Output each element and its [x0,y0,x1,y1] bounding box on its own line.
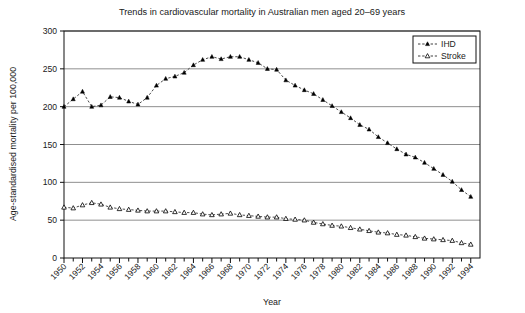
x-tick-label: 1966 [196,261,216,281]
x-tick-label: 1994 [455,261,475,281]
data-point-marker [173,209,178,213]
data-point-marker [395,232,400,236]
y-tick-label: 100 [43,177,58,187]
data-point-marker [441,237,446,241]
data-point-marker [108,205,113,209]
x-tick-label: 1992 [436,261,456,281]
x-tick-label: 1980 [325,261,345,281]
data-point-marker [274,215,279,219]
data-point-marker [62,205,67,209]
data-point-marker [117,206,122,210]
x-tick-label: 1960 [141,261,161,281]
data-point-marker [469,194,473,198]
data-point-marker [432,166,436,170]
data-point-marker [293,217,298,221]
x-tick-label: 1972 [252,261,272,281]
chart-legend: IHDStroke [413,36,476,63]
x-tick-label: 1978 [307,261,327,281]
data-series [62,54,473,246]
data-point-marker [127,99,131,103]
series-ihd [62,54,473,198]
chart-title: Trends in cardiovascular mortality in Au… [119,7,406,17]
y-tick-label: 0 [52,253,57,263]
data-point-marker [237,212,242,216]
data-point-marker [339,224,344,228]
data-point-marker [284,216,289,220]
data-point-marker [330,223,335,227]
data-point-marker [89,200,94,204]
x-tick-label: 1990 [418,261,438,281]
series-line [64,57,471,197]
x-tick-label: 1986 [381,261,401,281]
data-point-marker [228,211,233,215]
x-tick-label: 1974 [270,261,290,281]
data-point-marker [80,89,84,93]
data-point-marker [349,116,353,120]
x-tick-label: 1982 [344,261,364,281]
data-point-marker [293,83,297,87]
y-tick-label: 300 [43,26,58,36]
data-point-marker [191,63,195,67]
legend-label: Stroke [441,51,466,61]
series-stroke [62,200,473,246]
chart-container: Trends in cardiovascular mortality in Au… [0,0,525,313]
data-point-marker [321,98,325,102]
x-tick-label: 1970 [233,261,253,281]
data-point-marker [164,76,168,80]
data-point-marker [441,173,445,177]
y-axis: 050100150200250300 [43,26,64,263]
x-axis: 1950195219541956195819601962196419661968… [48,258,475,282]
y-tick-label: 200 [43,102,58,112]
y-tick-label: 250 [43,64,58,74]
data-point-marker [339,110,343,114]
series-line [64,203,471,245]
x-tick-label: 1950 [48,261,68,281]
x-tick-label: 1988 [399,261,419,281]
data-point-marker [450,179,454,183]
y-tick-label: 50 [47,215,57,225]
data-point-marker [386,141,390,145]
data-point-marker [80,203,85,207]
data-point-marker [117,95,121,99]
data-point-marker [247,58,251,62]
data-point-marker [423,160,427,164]
data-point-marker [404,152,408,156]
y-tick-label: 150 [43,140,58,150]
data-point-marker [367,127,371,131]
y-axis-title: Age-standardised mortality per 100,000 [8,67,18,221]
data-point-marker [154,83,158,87]
data-point-marker [210,54,214,58]
data-point-marker [163,209,168,213]
data-point-marker [385,231,390,235]
x-axis-title: Year [263,297,281,307]
data-point-marker [238,54,242,58]
x-tick-label: 1976 [289,261,309,281]
x-tick-label: 1962 [159,261,179,281]
data-point-marker [330,104,334,108]
legend-label: IHD [441,39,456,49]
x-tick-label: 1956 [104,261,124,281]
data-point-marker [173,74,177,78]
data-point-marker [450,238,455,242]
x-tick-label: 1952 [67,261,87,281]
x-tick-label: 1964 [178,261,198,281]
x-tick-label: 1954 [85,261,105,281]
data-point-marker [145,95,149,99]
data-point-marker [182,210,187,214]
data-point-marker [358,123,362,127]
data-point-marker [395,147,399,151]
x-tick-label: 1958 [122,261,142,281]
x-tick-label: 1968 [215,261,235,281]
data-point-marker [348,225,353,229]
data-point-marker [404,233,409,237]
x-tick-label: 1984 [362,261,382,281]
cardiovascular-mortality-chart: Trends in cardiovascular mortality in Au… [0,0,525,313]
